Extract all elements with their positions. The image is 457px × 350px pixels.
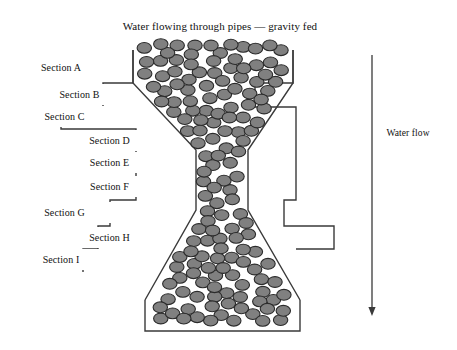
water-particle — [236, 244, 250, 255]
water-particle — [234, 303, 248, 314]
water-particle — [205, 225, 219, 236]
water-particle — [229, 233, 243, 244]
water-particle — [247, 264, 261, 275]
water-particle — [154, 39, 168, 50]
section-label-box: Section H — [63, 227, 156, 248]
diagram-canvas: Water flowing through pipes — gravity fe… — [0, 0, 457, 350]
water-particle — [228, 54, 242, 65]
water-particle — [207, 182, 221, 193]
section-label-text: Section C — [44, 112, 84, 122]
water-particle — [170, 79, 184, 90]
diagram-linework — [0, 0, 457, 350]
water-particle — [187, 236, 201, 247]
water-particle — [153, 302, 167, 313]
section-label-box: Section I — [18, 249, 104, 270]
water-particle — [194, 115, 208, 126]
water-particle — [248, 43, 262, 54]
water-particle — [190, 291, 204, 302]
water-particle — [263, 40, 277, 51]
water-particle — [184, 59, 198, 70]
water-particle — [254, 274, 268, 285]
water-particle — [168, 66, 182, 77]
section-label-box: Section A — [18, 57, 104, 78]
water-particle — [268, 277, 282, 288]
water-particle — [256, 286, 270, 297]
section-label-box: Section C — [18, 106, 111, 127]
water-particle — [204, 315, 218, 326]
water-particle — [176, 287, 190, 298]
water-particle — [277, 289, 291, 300]
section-label-text: Section E — [90, 158, 130, 168]
water-particle — [206, 56, 220, 67]
section-label-box: Section D — [63, 130, 156, 151]
section-label-text: Section H — [89, 233, 130, 243]
water-particle — [200, 206, 214, 217]
water-particle — [225, 194, 239, 205]
water-particle — [276, 305, 290, 316]
water-particle — [215, 76, 229, 87]
section-label-box: Section G — [18, 202, 111, 223]
particle-group — [137, 39, 291, 327]
section-label-box: Section F — [63, 176, 156, 197]
water-particle — [146, 81, 160, 92]
water-particle — [230, 171, 244, 182]
water-particle — [231, 146, 245, 157]
water-particle — [227, 315, 241, 326]
water-particle — [236, 257, 250, 268]
water-particle — [215, 210, 229, 221]
water-particle — [184, 246, 198, 257]
water-particle — [154, 96, 168, 107]
water-particle — [206, 133, 220, 144]
diagram-title-box: Water flowing through pipes — gravity fe… — [55, 14, 385, 38]
water-particle — [258, 69, 272, 80]
water-particle — [211, 150, 225, 161]
water-particle — [191, 138, 205, 149]
water-particle — [274, 65, 288, 76]
water-particle — [254, 94, 268, 105]
water-particle — [233, 292, 247, 303]
water-flow-arrow — [368, 55, 375, 316]
water-particle — [207, 282, 221, 293]
water-particle — [222, 112, 236, 123]
water-particle — [256, 316, 270, 327]
water-particle — [137, 43, 151, 54]
water-particle — [235, 280, 249, 291]
water-particle — [204, 40, 218, 51]
diagram-title-text: Water flowing through pipes — gravity fe… — [123, 21, 317, 32]
section-label-text: Section F — [90, 182, 129, 192]
water-particle — [201, 263, 215, 274]
water-particle — [224, 39, 238, 50]
section-label-text: Section G — [44, 208, 85, 218]
water-particle — [139, 57, 153, 68]
water-particle — [163, 278, 177, 289]
water-particle — [241, 99, 255, 110]
section-label-text: Section A — [41, 63, 81, 73]
water-particle — [236, 136, 250, 147]
water-particle — [138, 68, 152, 79]
section-label-text: Section D — [89, 136, 130, 146]
water-particle — [224, 102, 238, 113]
section-label-box: Section E — [63, 152, 156, 173]
section-label-box: Section B — [33, 84, 126, 105]
water-particle — [205, 301, 219, 312]
section-label-text: Section I — [43, 255, 80, 265]
water-particle — [170, 262, 184, 273]
water-flow-label-text: Water flow — [386, 129, 429, 139]
water-particle — [186, 268, 200, 279]
water-particle — [236, 112, 250, 123]
arrow-head — [368, 307, 375, 316]
water-particle — [218, 126, 232, 137]
water-particle — [221, 298, 235, 309]
water-particle — [223, 157, 237, 168]
water-particle — [216, 263, 230, 274]
water-particle — [177, 313, 191, 324]
section-label-text: Section B — [59, 90, 99, 100]
water-particle — [239, 218, 253, 229]
water-particle — [261, 258, 275, 269]
water-particle — [197, 166, 211, 177]
water-particle — [237, 63, 251, 74]
water-particle — [178, 114, 192, 125]
water-particle — [183, 96, 197, 107]
water-flow-label-box: Water flow — [374, 124, 442, 144]
water-particle — [199, 80, 213, 91]
